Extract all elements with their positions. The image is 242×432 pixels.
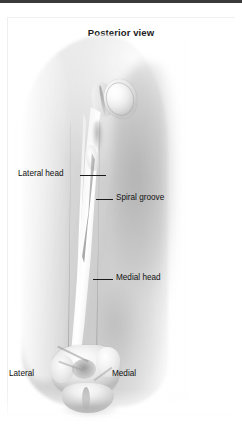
leader-line-lateral-head xyxy=(80,175,106,176)
olecranon-fossa xyxy=(72,359,96,379)
condyle-cast-shadow xyxy=(60,403,120,417)
label-medial-head: Medial head xyxy=(116,273,161,283)
leader-line-spiral-groove xyxy=(96,199,113,200)
label-lateral-head: Lateral head xyxy=(18,169,64,179)
arm-fade-bottom xyxy=(0,389,242,432)
figure-panel: Posterior view xyxy=(0,3,242,432)
label-medial-orientation: Medial xyxy=(112,369,136,379)
arm-highlight-left xyxy=(16,51,68,381)
arm-fade-right xyxy=(160,33,220,413)
label-spiral-groove: Spiral groove xyxy=(116,193,164,203)
humerus-illustration: Lateral head Spiral groove Medial head L… xyxy=(0,3,242,432)
label-lateral-orientation: Lateral xyxy=(9,369,34,379)
lateral-epicondyle xyxy=(50,355,74,383)
leader-line-medial-head xyxy=(93,279,113,280)
